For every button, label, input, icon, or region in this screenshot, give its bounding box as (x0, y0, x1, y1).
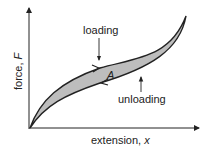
area-label: A (106, 69, 114, 81)
loading-label: loading (83, 24, 118, 36)
x-axis-variable: x (143, 134, 150, 146)
y-axis-label-text: force, (12, 59, 24, 90)
x-axis-label: extension, x (91, 134, 150, 146)
hysteresis-diagram: loading unloading A extension, x force, … (0, 0, 212, 151)
unloading-label: unloading (118, 93, 166, 105)
y-axis-variable: F (12, 51, 24, 59)
x-axis-label-text: extension, (91, 134, 144, 146)
y-axis-label: force, F (12, 51, 24, 90)
